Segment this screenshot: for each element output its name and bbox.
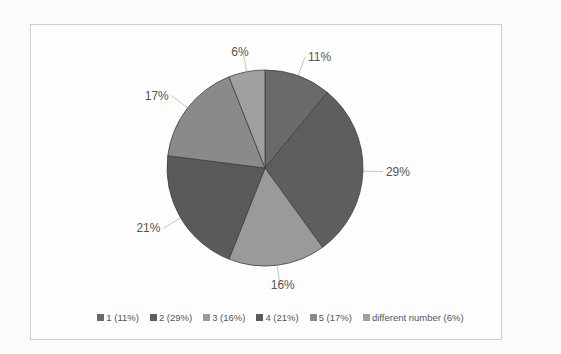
chart-legend: 1 (11%)2 (29%)3 (16%)4 (21%)5 (17%)diffe…	[0, 312, 561, 323]
legend-item: 3 (16%)	[203, 312, 245, 323]
leader-line	[172, 96, 188, 108]
legend-label: 1 (11%)	[106, 312, 139, 323]
legend-item: 4 (21%)	[256, 312, 298, 323]
leader-line	[163, 218, 180, 228]
legend-swatch-icon	[97, 314, 104, 321]
legend-item: different number (6%)	[363, 312, 464, 323]
legend-label: 5 (17%)	[319, 312, 352, 323]
legend-item: 5 (17%)	[310, 312, 352, 323]
legend-swatch-icon	[256, 314, 263, 321]
legend-label: different number (6%)	[372, 312, 464, 323]
legend-swatch-icon	[150, 314, 157, 321]
leader-line	[363, 171, 383, 172]
data-label: 21%	[136, 221, 160, 235]
legend-label: 2 (29%)	[159, 312, 192, 323]
data-label: 6%	[231, 45, 249, 59]
legend-item: 1 (11%)	[97, 312, 139, 323]
legend-swatch-icon	[363, 314, 370, 321]
legend-label: 3 (16%)	[212, 312, 245, 323]
data-label: 17%	[145, 89, 169, 103]
data-label: 29%	[386, 165, 410, 179]
pie-chart: 11%29%16%21%17%6%	[0, 0, 561, 354]
legend-item: 2 (29%)	[150, 312, 192, 323]
legend-swatch-icon	[310, 314, 317, 321]
leader-line	[298, 57, 305, 76]
data-label: 16%	[271, 278, 295, 292]
legend-label: 4 (21%)	[265, 312, 298, 323]
data-label: 11%	[308, 50, 331, 64]
legend-swatch-icon	[203, 314, 210, 321]
